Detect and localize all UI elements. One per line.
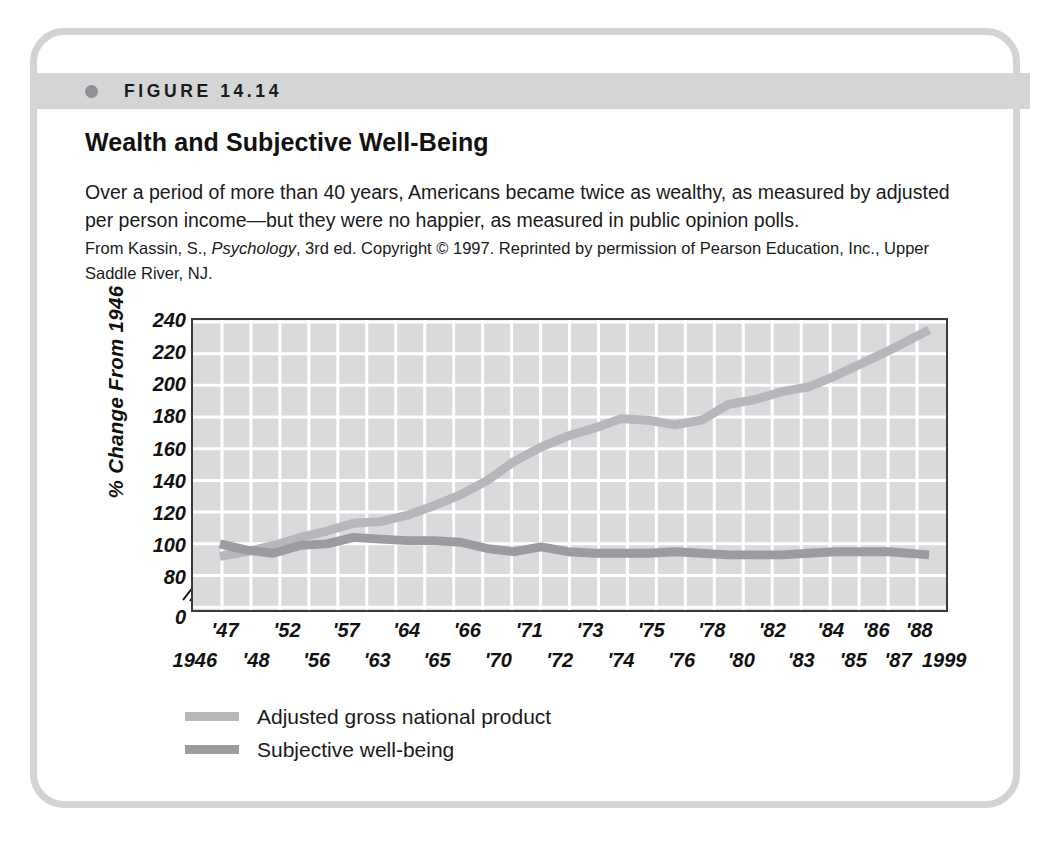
x-axis-tick-label: '85 — [840, 650, 867, 670]
x-axis-tick-label: '76 — [668, 650, 695, 670]
x-axis-tick-label: '82 — [759, 620, 786, 640]
chart-legend: Adjusted gross national productSubjectiv… — [185, 700, 785, 766]
x-axis-tick-label: '66 — [454, 620, 481, 640]
x-axis-tick-label: '87 — [885, 650, 912, 670]
grid-lines-vertical — [222, 320, 917, 610]
x-axis-tick-label: '70 — [485, 650, 512, 670]
legend-label: Adjusted gross national product — [257, 705, 551, 729]
x-axis-tick-label: '48 — [243, 650, 270, 670]
y-axis-tick-label: 120 — [153, 503, 186, 523]
caption-credit-text: From Kassin, S., Psychology, 3rd ed. Cop… — [85, 236, 965, 286]
x-axis-tick-label: '64 — [393, 620, 420, 640]
x-axis-tick-label: '84 — [817, 620, 844, 640]
credit-prefix: From Kassin, S., — [85, 239, 212, 257]
x-axis-tick-label: '72 — [546, 650, 573, 670]
x-axis-tick-label: '71 — [516, 620, 543, 640]
figure-title: Wealth and Subjective Well-Being — [85, 128, 489, 157]
x-axis-tick-label: 1999 — [922, 650, 967, 670]
y-axis-tick-label: 0 — [175, 607, 186, 627]
legend-item: Subjective well-being — [185, 733, 785, 766]
plot-canvas — [193, 320, 946, 610]
y-axis-tick-label: 200 — [153, 374, 186, 394]
y-axis-tick-label: 100 — [153, 535, 186, 555]
figure-number-band-content: FIGURE 14.14 — [85, 73, 282, 109]
x-axis-tick-label: '75 — [638, 620, 665, 640]
y-axis-tick-label: 140 — [153, 471, 186, 491]
figure-caption: Over a period of more than 40 years, Ame… — [85, 178, 965, 286]
x-axis-tick-label: 1946 — [173, 650, 218, 670]
figure-number-label: FIGURE 14.14 — [124, 81, 282, 102]
data-series-layer — [220, 330, 929, 557]
data-series-line — [220, 537, 929, 554]
y-axis-tick-label: 220 — [153, 342, 186, 362]
x-axis-tick-label: '88 — [906, 620, 933, 640]
x-axis-row-top: '47'52'57'64'66'71'73'75'78'82'84'86'88 — [191, 620, 948, 648]
x-axis-tick-label: '65 — [424, 650, 451, 670]
x-axis-row-bottom: 1946'48'56'63'65'70'72'74'76'80'83'85'87… — [191, 650, 948, 678]
credit-source-title: Psychology — [212, 239, 296, 257]
x-axis-tick-label: '83 — [788, 650, 815, 670]
x-axis-tick-label: '47 — [212, 620, 239, 640]
y-axis-tick-labels: 240220200180160140120100800 — [120, 305, 186, 615]
x-axis-tick-label: '52 — [274, 620, 301, 640]
y-axis-tick-label: 160 — [153, 439, 186, 459]
x-axis-tick-label: '80 — [728, 650, 755, 670]
y-axis-tick-label: 240 — [153, 310, 186, 330]
x-axis-tick-label: '56 — [303, 650, 330, 670]
data-series-line — [220, 330, 929, 557]
x-axis-tick-label: '86 — [863, 620, 890, 640]
x-axis-tick-label: '73 — [576, 620, 603, 640]
x-axis-tick-label: '78 — [698, 620, 725, 640]
caption-main-text: Over a period of more than 40 years, Ame… — [85, 178, 965, 234]
figure-number-band: FIGURE 14.14 — [30, 73, 1030, 109]
y-axis-tick-label: 180 — [153, 406, 186, 426]
legend-color-swatch — [185, 712, 239, 721]
plot-area — [191, 318, 948, 612]
legend-color-swatch — [185, 745, 239, 754]
bullet-dot-icon — [85, 85, 98, 98]
legend-item: Adjusted gross national product — [185, 700, 785, 733]
x-axis-tick-labels: '47'52'57'64'66'71'73'75'78'82'84'86'88 … — [191, 620, 948, 682]
x-axis-tick-label: '74 — [607, 650, 634, 670]
x-axis-tick-label: '63 — [364, 650, 391, 670]
x-axis-tick-label: '57 — [333, 620, 360, 640]
legend-label: Subjective well-being — [257, 738, 454, 762]
